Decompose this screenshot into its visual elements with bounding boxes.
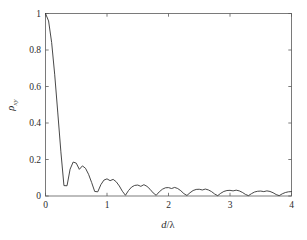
y-tick-label: 0.6	[29, 82, 41, 92]
y-axis-title-subscript: xy	[11, 98, 19, 106]
x-tick-label: 2	[166, 200, 171, 210]
x-tick-label: 1	[105, 200, 110, 210]
x-axis-title: d/λ	[161, 219, 175, 230]
x-tick-label: 0	[43, 200, 48, 210]
y-tick-label: 0.8	[29, 45, 41, 55]
y-tick-label: 0.2	[29, 155, 41, 165]
figure-canvas: 01234 00.20.40.60.81 d/λ ρxy	[0, 0, 307, 240]
y-tick-label: 1	[36, 9, 41, 19]
correlation-plot: 01234 00.20.40.60.81 d/λ ρxy	[0, 0, 307, 240]
x-tick-label: 3	[228, 200, 233, 210]
y-tick-label: 0	[36, 191, 41, 201]
y-tick-label: 0.4	[29, 118, 41, 128]
x-tick-label: 4	[289, 200, 294, 210]
